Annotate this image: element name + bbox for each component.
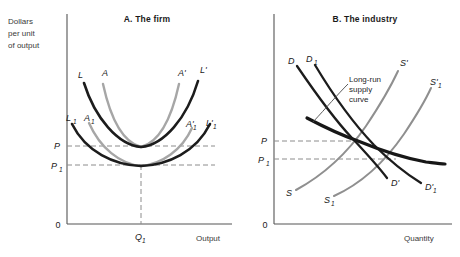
label-curve-a1-prime-sub: 1: [193, 124, 197, 131]
panel-a-origin-label: 0: [55, 220, 60, 230]
panel-a-price1-sub: 1: [59, 166, 63, 173]
label-curve-s: S: [286, 188, 292, 198]
panel-a-title: A. The firm: [124, 14, 171, 24]
label-curve-a1-base: A: [83, 113, 90, 123]
panel-a-quantity-base: Q: [135, 232, 142, 242]
panel-a-quantity-sub: 1: [142, 237, 146, 244]
label-curve-s1-sub: 1: [331, 200, 335, 207]
panel-a-price1-base: P: [51, 161, 57, 171]
annotation-line1: Long-run: [349, 75, 381, 84]
economics-figure: Dollars per unit of output A. The firm L…: [0, 0, 460, 257]
label-curve-l1-prime-base: L': [206, 118, 213, 128]
panel-b-x-axis-label: Quantity: [404, 234, 434, 243]
panel-b-price1-base: P: [258, 155, 264, 165]
label-curve-l1-prime-sub: 1: [213, 123, 217, 130]
label-curve-s1-base: S: [324, 195, 330, 205]
figure-svg: Dollars per unit of output A. The firm L…: [0, 0, 460, 257]
panel-b-price-label: P: [261, 136, 267, 146]
label-curve-s1-prime-sub: 1: [438, 82, 442, 89]
annotation-line2: supply: [349, 85, 372, 94]
label-curve-l1-sub: 1: [73, 118, 77, 125]
label-curve-s-prime: S': [400, 58, 408, 68]
panel-b-title: B. The industry: [333, 14, 398, 24]
label-curve-l1-base: L: [66, 113, 71, 123]
label-curve-d-prime: D': [391, 178, 399, 188]
label-curve-d1-base: D: [306, 54, 313, 64]
panel-b-origin-label: 0: [262, 220, 267, 230]
label-curve-a1-sub: 1: [91, 118, 95, 125]
label-curve-d1-sub: 1: [314, 59, 318, 66]
label-curve-l: L: [78, 70, 83, 80]
panel-b-price1-sub: 1: [266, 160, 270, 167]
label-curve-s1-prime-base: S': [430, 77, 438, 87]
y-axis-caption-line1: Dollars: [8, 17, 33, 26]
label-curve-d1-prime-sub: 1: [433, 187, 437, 194]
panel-a-price-label: P: [54, 141, 60, 151]
label-curve-d: D: [288, 56, 295, 66]
label-curve-l-prime: L': [200, 65, 207, 75]
label-curve-a: A: [101, 68, 108, 78]
label-curve-a-prime: A': [177, 68, 186, 78]
y-axis-caption-line3: of output: [8, 41, 40, 50]
panel-a-x-axis-label: Output: [196, 234, 221, 243]
y-axis-caption-line2: per unit: [8, 29, 35, 38]
figure-background: [0, 0, 460, 257]
annotation-line3: curve: [349, 95, 369, 104]
